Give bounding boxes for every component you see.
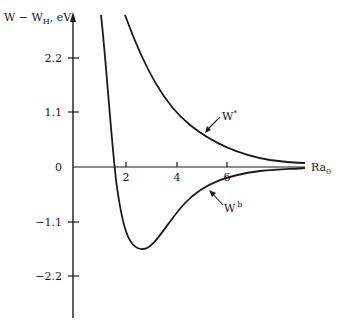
chart: 2.2 1.1 0 −1.1 −2.2 2 4 6 W − WH, eV Ra0… (0, 0, 344, 329)
series-w-star-line (125, 15, 305, 163)
y-tick-label: −2.2 (35, 270, 62, 283)
y-axis-label: W − WH, eV (4, 11, 72, 26)
y-tick-label: 1.1 (45, 106, 63, 119)
x-tick-label: 2 (123, 171, 130, 184)
x-ticks (126, 162, 227, 167)
x-axis-label: Ra0 (311, 161, 331, 176)
y-tick-label: −1.1 (35, 216, 62, 229)
x-tick-label: 4 (174, 171, 181, 184)
w-b-label: Wb (224, 200, 242, 215)
y-tick-label: 0 (55, 161, 62, 174)
y-tick-label: 2.2 (45, 52, 63, 65)
series-w-b-line (101, 15, 305, 249)
w-star-label: W* (222, 109, 237, 123)
